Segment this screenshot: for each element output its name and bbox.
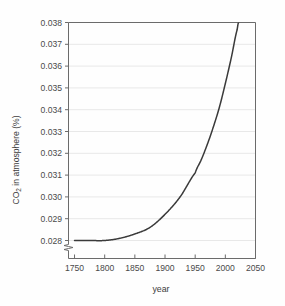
y-tick-label-10: 0.038 bbox=[40, 18, 62, 28]
y-tick-label-0: 0.028 bbox=[40, 236, 62, 246]
gridline-group bbox=[69, 23, 256, 241]
y-tick-label-6: 0.034 bbox=[40, 105, 62, 115]
y-tick-label-2: 0.030 bbox=[40, 192, 62, 202]
y-axis-break-icon bbox=[64, 245, 73, 251]
y-axis-title-rest: in atmosphere (%) bbox=[11, 115, 21, 188]
x-tick-label-group: 1750180018501900195020002050 bbox=[65, 263, 265, 273]
y-tick-label-7: 0.035 bbox=[40, 83, 62, 93]
x-tick-label-2: 1850 bbox=[125, 263, 144, 273]
x-tick-label-3: 1900 bbox=[155, 263, 174, 273]
x-tick-label-1: 1800 bbox=[95, 263, 114, 273]
x-tick-mark-group bbox=[75, 255, 256, 259]
chart-canvas: 0.0280.0290.0300.0310.0320.0330.0340.035… bbox=[0, 0, 285, 306]
y-tick-label-5: 0.033 bbox=[40, 127, 62, 137]
x-tick-label-6: 2050 bbox=[246, 263, 265, 273]
co2-line-chart: 0.0280.0290.0300.0310.0320.0330.0340.035… bbox=[0, 0, 285, 306]
x-tick-label-4: 1950 bbox=[186, 263, 205, 273]
x-tick-label-5: 2000 bbox=[216, 263, 235, 273]
y-axis-title: CO2 in atmosphere (%) bbox=[11, 115, 22, 204]
y-tick-label-group: 0.0280.0290.0300.0310.0320.0330.0340.035… bbox=[40, 18, 62, 246]
y-axis-title-main: CO bbox=[11, 191, 21, 204]
y-tick-mark-group bbox=[65, 23, 69, 241]
plot-frame bbox=[69, 23, 256, 259]
x-tick-label-0: 1750 bbox=[65, 263, 84, 273]
y-tick-label-8: 0.036 bbox=[40, 61, 62, 71]
y-tick-label-9: 0.037 bbox=[40, 39, 62, 49]
y-tick-label-3: 0.031 bbox=[40, 170, 62, 180]
axis-break-zigzag bbox=[64, 245, 73, 251]
y-tick-label-1: 0.029 bbox=[40, 214, 62, 224]
x-axis-title: year bbox=[152, 284, 169, 294]
y-tick-label-4: 0.032 bbox=[40, 148, 62, 158]
